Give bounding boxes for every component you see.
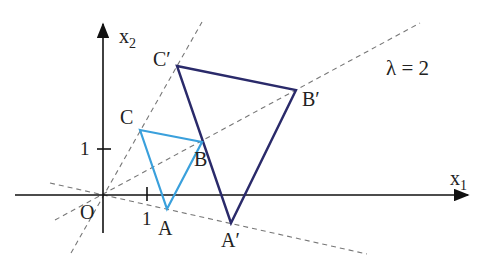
- vertex-a-prime-label: A′: [221, 229, 240, 251]
- y-axis-label: x2: [119, 25, 136, 51]
- x-axis-label: x1: [450, 167, 467, 193]
- vertex-a-label: A: [158, 217, 173, 239]
- diagram-svg: x2 x1 1 1 O C B A C′ B′ A′ λ = 2: [0, 0, 490, 263]
- image-triangle: [177, 66, 296, 223]
- original-triangle: [140, 130, 202, 209]
- ray-through-a: [50, 183, 367, 254]
- vertex-c-label: C: [120, 106, 133, 128]
- lambda-annotation: λ = 2: [386, 56, 429, 80]
- x-tick-label: 1: [142, 208, 152, 229]
- dashed-rays: [50, 22, 420, 254]
- vertex-c-prime-label: C′: [153, 48, 171, 70]
- homothety-diagram: x2 x1 1 1 O C B A C′ B′ A′ λ = 2: [0, 0, 490, 263]
- y-tick-label: 1: [80, 138, 90, 159]
- vertex-b-prime-label: B′: [302, 88, 320, 110]
- origin-label: O: [80, 201, 94, 223]
- vertex-b-label: B: [194, 148, 207, 170]
- ray-through-b: [55, 23, 420, 220]
